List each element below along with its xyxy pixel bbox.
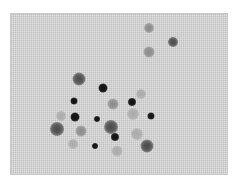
cell-spot xyxy=(76,126,87,137)
cell-spot xyxy=(68,139,78,149)
cell-spot xyxy=(112,146,123,157)
figure-caption: · · · · · · · · · · · xyxy=(10,0,100,4)
cell-spot xyxy=(104,120,118,134)
cell-spot xyxy=(131,128,143,140)
cell-spot xyxy=(73,73,86,86)
cell-spot xyxy=(144,23,154,33)
cell-spot xyxy=(92,143,98,149)
cell-spot xyxy=(71,113,80,122)
cell-spot xyxy=(136,89,146,99)
cell-spot xyxy=(128,98,136,106)
micrograph-image xyxy=(10,13,228,175)
cell-spot xyxy=(99,84,108,93)
cell-spot xyxy=(127,108,139,120)
cell-spot xyxy=(50,122,64,136)
cell-spot xyxy=(144,47,155,58)
cell-spot xyxy=(108,99,119,110)
cell-spot xyxy=(111,133,119,141)
cell-spot xyxy=(168,37,178,47)
cell-spot xyxy=(148,113,155,120)
cell-spot xyxy=(141,140,154,153)
cell-spot xyxy=(94,116,100,122)
cell-spot xyxy=(71,98,78,105)
cell-spot xyxy=(56,111,66,121)
